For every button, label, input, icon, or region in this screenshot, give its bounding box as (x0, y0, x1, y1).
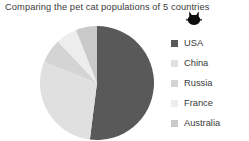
pie-chart-figure: Comparing the pet cat populations of 5 c… (0, 0, 249, 141)
legend-label-russia: Russia (184, 78, 212, 89)
chart-title: Comparing the pet cat populations of 5 c… (5, 1, 209, 13)
legend-swatch-russia (171, 80, 178, 87)
cat-silhouette-icon (186, 10, 202, 26)
legend-swatch-australia (171, 120, 178, 127)
legend-item-france: France (169, 93, 249, 113)
legend-item-australia: Australia (169, 113, 249, 133)
legend-label-china: China (184, 58, 208, 69)
legend-swatch-china (171, 60, 178, 67)
legend-swatch-france (171, 100, 178, 107)
legend-item-china: China (169, 53, 249, 73)
legend-label-usa: USA (184, 38, 203, 49)
pie-chart-plot-area (38, 25, 156, 141)
legend-item-usa: USA (169, 33, 249, 53)
pie-slice-usa (90, 26, 154, 140)
legend-swatch-usa (171, 40, 178, 47)
legend-item-russia: Russia (169, 73, 249, 93)
legend-label-australia: Australia (184, 118, 220, 129)
chart-legend: USA China Russia France Australia (169, 33, 249, 133)
legend-label-france: France (184, 98, 213, 109)
